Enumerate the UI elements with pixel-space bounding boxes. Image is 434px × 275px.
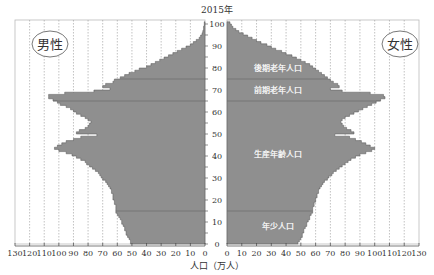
y-tick-label: 40 (212, 152, 222, 161)
x-tick-label: 110 (382, 249, 397, 258)
x-tick-label: 10 (185, 249, 195, 258)
y-tick-label: 100 (209, 20, 224, 29)
y-tick-label: 60 (212, 108, 222, 117)
x-tick-label: 20 (251, 249, 261, 258)
x-tick-label: 0 (224, 249, 229, 258)
label-late-elderly: 後期老年人口 (254, 63, 302, 73)
x-tick-label: 90 (355, 249, 365, 258)
x-tick-label: 80 (83, 249, 93, 258)
y-tick-label: 0 (214, 240, 219, 249)
x-tick-label: 120 (22, 249, 37, 258)
x-tick-label: 10 (237, 249, 247, 258)
label-working-age: 生産年齢人口 (254, 149, 302, 159)
label-youth: 年少人口 (262, 221, 294, 231)
x-tick-label: 0 (202, 249, 207, 258)
y-tick-label: 80 (212, 64, 222, 73)
x-tick-label: 130 (411, 249, 426, 258)
chart-canvas: 1301201101009080706050403020100010203040… (0, 0, 434, 275)
x-tick-label: 80 (340, 249, 350, 258)
y-tick-label: 30 (212, 174, 222, 183)
x-tick-label: 110 (37, 249, 52, 258)
x-tick-label: 130 (7, 249, 22, 258)
male-label: 男性 (37, 37, 63, 52)
y-tick-label: 90 (212, 42, 222, 51)
x-tick-label: 20 (171, 249, 181, 258)
x-tick-label: 50 (127, 249, 137, 258)
y-tick-label: 50 (212, 130, 222, 139)
x-tick-label: 50 (296, 249, 306, 258)
x-tick-label: 60 (311, 249, 321, 258)
x-tick-label: 40 (141, 249, 151, 258)
x-tick-label: 40 (281, 249, 291, 258)
x-tick-label: 70 (325, 249, 335, 258)
female-bars (227, 22, 385, 244)
x-tick-label: 30 (156, 249, 166, 258)
x-tick-label: 70 (98, 249, 108, 258)
x-axis-label: 人口（万人） (0, 259, 434, 272)
y-tick-label: 10 (212, 218, 222, 227)
y-tick-label: 70 (212, 86, 222, 95)
x-tick-label: 90 (68, 249, 78, 258)
x-tick-label: 100 (51, 249, 66, 258)
male-bars (49, 22, 205, 244)
female-label: 女性 (387, 37, 413, 52)
y-tick-label: 20 (212, 196, 222, 205)
x-tick-label: 60 (112, 249, 122, 258)
x-tick-label: 120 (397, 249, 412, 258)
x-tick-label: 30 (266, 249, 276, 258)
label-early-elderly: 前期老年人口 (254, 85, 302, 95)
x-tick-label: 100 (367, 249, 382, 258)
